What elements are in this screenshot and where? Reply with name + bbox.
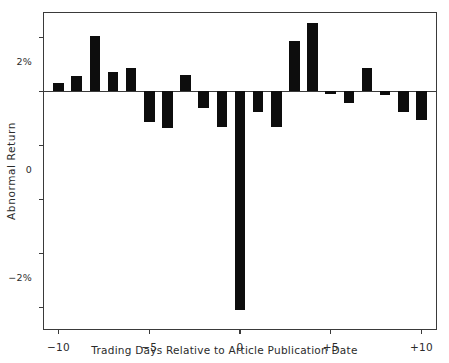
y-tick-0: 2% <box>39 37 44 38</box>
bar-day--7 <box>108 72 119 91</box>
bar-day-7 <box>362 68 373 91</box>
bar-day-3 <box>289 41 300 92</box>
x-tick-4: +10 <box>421 329 422 334</box>
x-tick-2: 0 <box>239 329 240 334</box>
bar-day-6 <box>344 91 355 102</box>
x-axis-title: Trading Days Relative to Article Publica… <box>0 344 449 356</box>
bar-day-1 <box>253 91 264 111</box>
y-axis-title: Abnormal Return <box>5 122 17 220</box>
x-tick-3: +5 <box>330 329 331 334</box>
bar-day-0 <box>235 91 246 310</box>
y-tick-label-2: −2% <box>8 272 32 283</box>
x-tick-0: −10 <box>58 329 59 334</box>
bar-day--4 <box>162 91 173 127</box>
chart-page: Abnormal Return 2%0−2%−4%−6%−8%−10−50+5+… <box>0 0 449 363</box>
y-tick-label-0: 2% <box>17 56 32 67</box>
y-tick-1: 0 <box>39 91 44 92</box>
bar-day-9 <box>398 91 409 112</box>
bar-day-4 <box>307 23 318 91</box>
y-tick-label-1: 0 <box>26 164 32 175</box>
plot-frame: 2%0−2%−4%−6%−8%−10−50+5+10 <box>43 12 437 330</box>
bar-day--2 <box>198 91 209 108</box>
bar-day--9 <box>71 76 82 91</box>
bar-day-2 <box>271 91 282 127</box>
bar-day--1 <box>217 91 228 127</box>
y-tick-5: −8% <box>39 307 44 308</box>
bar-day--10 <box>53 83 64 92</box>
y-tick-4: −6% <box>39 253 44 254</box>
bar-day-10 <box>416 91 427 119</box>
bar-day--8 <box>90 36 101 92</box>
y-tick-2: −2% <box>39 145 44 146</box>
x-tick-1: −5 <box>149 329 150 334</box>
bar-day-5 <box>325 91 336 94</box>
y-tick-3: −4% <box>39 199 44 200</box>
bar-day--5 <box>144 91 155 121</box>
bar-day-8 <box>380 91 391 94</box>
y-axis-title-wrapper: Abnormal Return <box>14 0 15 363</box>
bar-day--6 <box>126 68 137 92</box>
bar-day--3 <box>180 75 191 92</box>
plot-area: 2%0−2%−4%−6%−8%−10−50+5+10 <box>44 13 436 329</box>
